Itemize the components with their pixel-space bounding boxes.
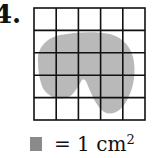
gray-blob-shape [38, 32, 135, 113]
legend-text: = 1 cm2 [54, 134, 135, 154]
legend-equals: = 1 cm [54, 132, 126, 156]
legend: = 1 cm2 [30, 134, 135, 154]
legend-exponent: 2 [126, 132, 134, 147]
legend-swatch [30, 137, 42, 151]
